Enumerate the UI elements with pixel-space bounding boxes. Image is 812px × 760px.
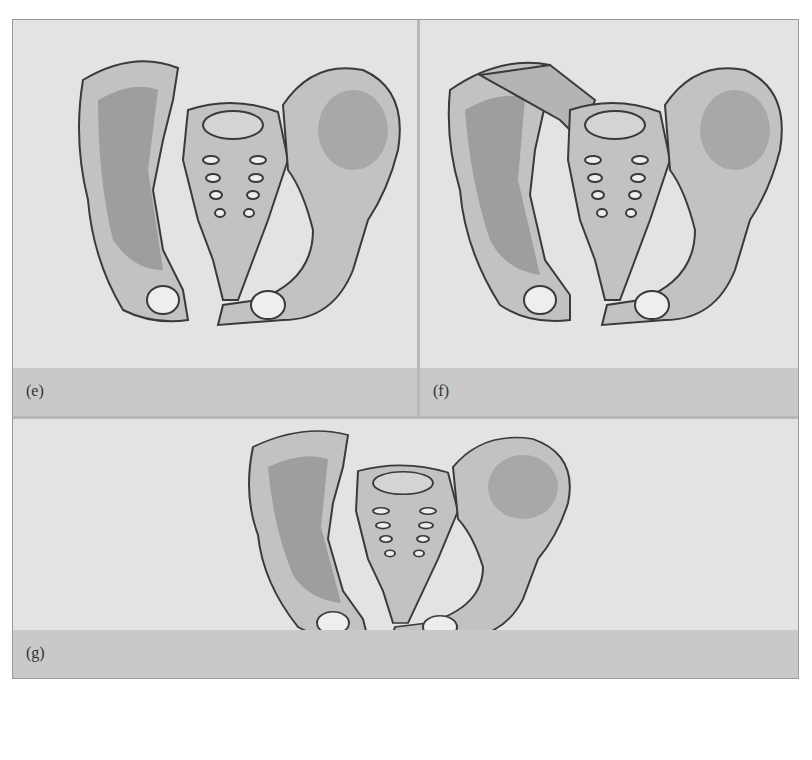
panel-f: (f) [420,20,798,416]
pelvis-illustration-g [13,419,798,630]
pelvis-illustration-e [13,20,417,368]
caption-bar-e: (e) [13,368,417,416]
caption-bar-f: (f) [420,368,798,416]
panel-label-f: (f) [433,382,449,400]
panel-e: (e) [13,20,417,416]
panel-label-g: (g) [26,644,45,662]
caption-bar-g: (g) [13,630,798,678]
panel-g: (g) [13,419,798,678]
panel-label-e: (e) [26,382,44,400]
pelvis-illustration-f [420,20,798,368]
figure-frame: (e) (f) [12,19,799,679]
